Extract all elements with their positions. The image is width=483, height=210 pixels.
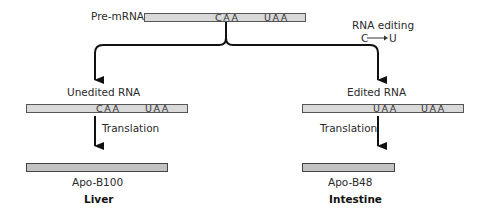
left-translation-label: Translation — [102, 123, 159, 134]
liver-label: Liver — [84, 194, 113, 205]
intestine-label: Intestine — [329, 194, 382, 205]
codon: UAA — [421, 104, 446, 114]
codon: UAA — [264, 13, 289, 23]
apo-b100-bar — [26, 163, 168, 172]
codon: UAA — [373, 104, 398, 114]
unedited-rna-bar: CAA UAA — [26, 104, 188, 113]
pre-mrna-bar: CAA UAA — [144, 13, 306, 22]
unedited-rna-label: Unedited RNA — [67, 87, 140, 98]
apo-b48-bar — [302, 163, 395, 172]
codon: CAA — [96, 104, 120, 114]
apo-b100-label: Apo-B100 — [72, 177, 123, 188]
edited-rna-bar: UAA UAA — [302, 104, 464, 113]
right-branch-arrow — [233, 45, 378, 80]
codon: CAA — [215, 13, 239, 23]
right-translation-label: Translation — [320, 123, 377, 134]
apo-b48-label: Apo-B48 — [328, 177, 372, 188]
edit-from-base: C — [361, 33, 368, 44]
bracket-stem — [219, 22, 226, 45]
edited-rna-label: Edited RNA — [347, 87, 406, 98]
left-branch-arrow — [95, 45, 219, 80]
codon: UAA — [145, 104, 170, 114]
pre-mrna-label: Pre-mRNA — [91, 11, 144, 22]
rna-editing-label: RNA editing — [352, 20, 414, 31]
edit-to-base: U — [389, 33, 397, 44]
